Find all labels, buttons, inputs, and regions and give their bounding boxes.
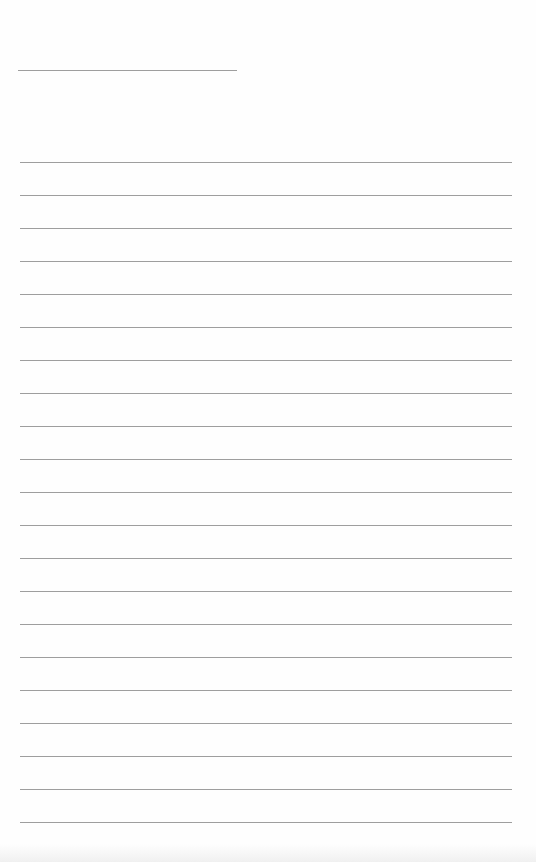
ruled-line xyxy=(20,657,512,658)
ruled-line xyxy=(20,459,512,460)
ruled-line xyxy=(20,690,512,691)
ruled-lines xyxy=(0,0,536,862)
ruled-line xyxy=(20,756,512,757)
ruled-line xyxy=(20,789,512,790)
ruled-line xyxy=(20,558,512,559)
ruled-line xyxy=(20,195,512,196)
lined-paper-page xyxy=(0,0,536,862)
ruled-line xyxy=(20,624,512,625)
ruled-line xyxy=(20,162,512,163)
ruled-line xyxy=(20,294,512,295)
ruled-line xyxy=(20,591,512,592)
ruled-line xyxy=(20,492,512,493)
ruled-line xyxy=(20,393,512,394)
ruled-line xyxy=(20,261,512,262)
ruled-line xyxy=(20,525,512,526)
ruled-line xyxy=(20,228,512,229)
ruled-line xyxy=(20,822,512,823)
ruled-line xyxy=(20,360,512,361)
ruled-line xyxy=(20,426,512,427)
ruled-line xyxy=(20,327,512,328)
ruled-line xyxy=(20,723,512,724)
page-bottom-edge xyxy=(0,844,536,862)
